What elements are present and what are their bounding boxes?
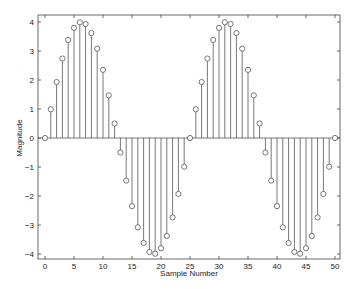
circle-marker-icon (129, 204, 134, 209)
circle-marker-icon (193, 107, 198, 112)
circle-marker-icon (199, 79, 204, 84)
circle-marker-icon (153, 251, 158, 256)
circle-marker-icon (234, 30, 239, 35)
circle-marker-icon (48, 107, 53, 112)
circle-marker-icon (315, 215, 320, 220)
circle-marker-icon (54, 79, 59, 84)
circle-marker-icon (269, 178, 274, 183)
circle-marker-icon (298, 251, 303, 256)
circle-marker-icon (286, 240, 291, 245)
circle-marker-icon (112, 121, 117, 126)
x-axis-label: Sample Number (160, 269, 218, 278)
circle-marker-icon (141, 240, 146, 245)
circle-marker-icon (106, 93, 111, 98)
x-tick-label: 45 (302, 262, 311, 271)
circle-marker-icon (257, 121, 262, 126)
circle-marker-icon (222, 20, 227, 25)
x-tick-label: 50 (331, 262, 340, 271)
x-tick-label: 35 (244, 262, 253, 271)
circle-marker-icon (327, 164, 332, 169)
circle-marker-icon (274, 204, 279, 209)
circle-marker-icon (71, 25, 76, 30)
circle-marker-icon (135, 225, 140, 230)
circle-marker-icon (245, 67, 250, 72)
x-tick-label: 40 (273, 262, 282, 271)
y-tick-label: −3 (25, 221, 35, 230)
x-tick-label: 10 (99, 262, 108, 271)
circle-marker-icon (216, 25, 221, 30)
circle-marker-icon (309, 233, 314, 238)
circle-marker-icon (280, 225, 285, 230)
x-tick-label: 5 (72, 262, 77, 271)
circle-marker-icon (251, 93, 256, 98)
y-tick-label: 0 (30, 134, 35, 143)
y-tick-label: −1 (25, 163, 35, 172)
circle-marker-icon (170, 215, 175, 220)
circle-marker-icon (211, 37, 216, 42)
y-tick-label: 4 (30, 18, 35, 27)
stem-point (187, 135, 192, 140)
circle-marker-icon (83, 21, 88, 26)
y-tick-label: 2 (30, 76, 35, 85)
y-tick-label: −4 (25, 250, 35, 259)
circle-marker-icon (164, 233, 169, 238)
circle-marker-icon (332, 135, 337, 140)
stem-point (332, 135, 337, 140)
circle-marker-icon (263, 150, 268, 155)
circle-marker-icon (176, 191, 181, 196)
circle-marker-icon (77, 20, 82, 25)
y-tick-label: 1 (30, 105, 35, 114)
stem-point (42, 135, 47, 140)
circle-marker-icon (89, 30, 94, 35)
y-tick-label: 3 (30, 47, 35, 56)
circle-marker-icon (205, 56, 210, 61)
circle-marker-icon (147, 249, 152, 254)
circle-marker-icon (60, 56, 65, 61)
circle-marker-icon (187, 135, 192, 140)
circle-marker-icon (66, 37, 71, 42)
circle-marker-icon (124, 178, 129, 183)
x-tick-label: 0 (43, 262, 48, 271)
y-axis-label: Magnitude (15, 119, 24, 157)
circle-marker-icon (95, 46, 100, 51)
circle-marker-icon (42, 135, 47, 140)
circle-marker-icon (240, 46, 245, 51)
x-tick-label: 15 (128, 262, 137, 271)
circle-marker-icon (182, 164, 187, 169)
stem-plot: 05101520253035404550 −4−3−2−101234 Sampl… (0, 0, 359, 289)
circle-marker-icon (292, 249, 297, 254)
circle-marker-icon (303, 246, 308, 251)
y-tick-label: −2 (25, 192, 35, 201)
circle-marker-icon (118, 150, 123, 155)
circle-marker-icon (158, 246, 163, 251)
circle-marker-icon (100, 67, 105, 72)
circle-marker-icon (321, 191, 326, 196)
circle-marker-icon (228, 21, 233, 26)
